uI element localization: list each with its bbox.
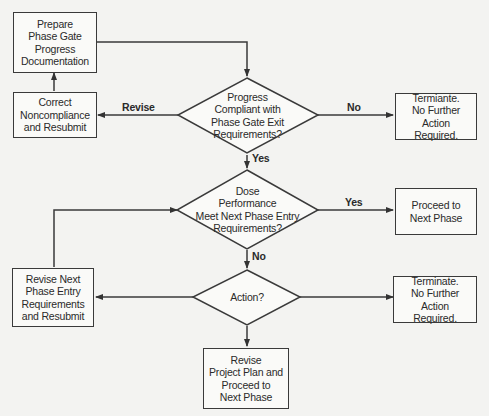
node-proceed: Proceed to Next Phase <box>395 188 477 235</box>
edge-label-no-1: No <box>347 101 361 113</box>
node-correct: Correct Noncompliance and Resubmit <box>13 92 97 138</box>
edge-label-yes-2: Yes <box>345 196 363 208</box>
edge-label-yes-1: Yes <box>252 152 270 164</box>
decision-text-performance: Dose Performance Meet Next Phase Entry R… <box>186 182 309 237</box>
node-revise-plan: Revise Project Plan and Proceed to Next … <box>203 348 289 409</box>
node-revise-entry: Revise Next Phase Entry Requirements and… <box>12 268 94 327</box>
edge-prepare-to-compliant <box>96 42 247 76</box>
edge-label-no-2: No <box>252 250 266 262</box>
node-prepare: Prepare Phase Gate Progress Documentatio… <box>13 12 97 73</box>
decision-text-compliant: Progress Compliant with Phase Gate Exit … <box>190 88 305 143</box>
node-terminate-2: Terminate. No Further Action Required. <box>393 276 477 323</box>
edge-revise-entry-to-performance <box>54 210 177 267</box>
decision-text-action: Action? <box>205 288 289 306</box>
edge-label-revise: Revise <box>122 101 155 113</box>
node-terminate-1: Termiante. No Further Action Required. <box>395 93 477 140</box>
flowchart: Prepare Phase Gate Progress Documentatio… <box>0 0 489 416</box>
